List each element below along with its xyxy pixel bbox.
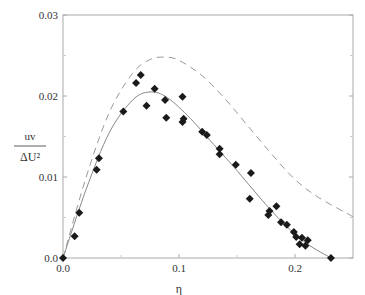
data-point-marker (71, 232, 79, 240)
y-axis-label-denominator: ΔU² (20, 150, 40, 164)
data-point-marker (247, 169, 255, 177)
data-points (59, 71, 335, 262)
x-tick-label: 0.0 (56, 262, 70, 274)
y-tick-label: 0.03 (39, 9, 59, 21)
data-point-marker (137, 71, 145, 79)
x-tick-label: 0.1 (172, 262, 186, 274)
y-tick-label: 0.0 (44, 252, 58, 264)
data-point-marker (232, 161, 240, 169)
y-tick-label: 0.02 (39, 90, 58, 102)
data-point-marker (162, 114, 170, 122)
x-tick-label: 0.2 (288, 262, 302, 274)
data-point-marker (272, 202, 280, 210)
data-point-marker (143, 102, 151, 110)
data-point-marker (59, 254, 67, 262)
data-point-marker (327, 254, 335, 262)
axes: 0.00.10.20.00.010.020.03 (39, 9, 353, 274)
x-axis-label: η (176, 282, 182, 295)
data-point-marker (93, 166, 101, 174)
axis-labels: uv ΔU² η (14, 130, 182, 295)
chart: 0.00.10.20.00.010.020.03 uv ΔU² η (0, 0, 365, 295)
data-point-marker (296, 240, 304, 248)
data-point-marker (95, 154, 103, 162)
y-axis-label-numerator: uv (25, 130, 37, 142)
data-point-marker (246, 195, 254, 203)
y-tick-label: 0.01 (39, 171, 58, 183)
dashed-curve (63, 57, 353, 258)
data-point-marker (178, 93, 186, 101)
data-point-marker (132, 79, 140, 87)
data-point-marker (161, 96, 169, 104)
curves (63, 57, 353, 258)
data-point-marker (216, 150, 224, 158)
